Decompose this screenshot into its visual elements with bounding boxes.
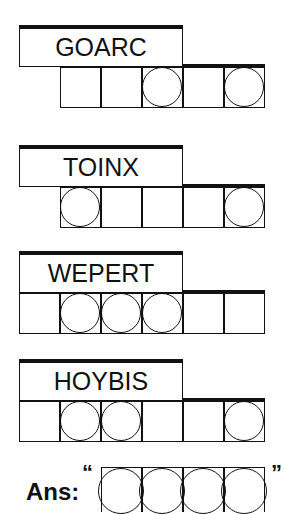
letter-cell[interactable] bbox=[60, 187, 101, 228]
answer-label: Ans: bbox=[26, 478, 79, 506]
letter-cell[interactable] bbox=[142, 67, 183, 108]
letter-cell[interactable] bbox=[19, 401, 60, 442]
letter-cell[interactable] bbox=[101, 293, 142, 334]
circle-marker-icon bbox=[60, 187, 100, 227]
letter-cell[interactable] bbox=[60, 293, 101, 334]
scrambled-word: TOINX bbox=[19, 145, 183, 187]
circle-marker-icon bbox=[139, 468, 185, 514]
scrambled-word: GOARC bbox=[19, 25, 183, 67]
letter-cell[interactable] bbox=[19, 293, 60, 334]
circle-marker-icon bbox=[221, 468, 267, 514]
circle-marker-icon bbox=[98, 468, 144, 514]
letter-cell[interactable] bbox=[101, 187, 142, 228]
circle-marker-icon bbox=[60, 401, 100, 441]
letter-cell[interactable] bbox=[101, 67, 142, 108]
letter-cell[interactable] bbox=[101, 401, 142, 442]
letter-cell[interactable] bbox=[142, 401, 183, 442]
circle-marker-icon bbox=[224, 67, 264, 107]
letter-cell[interactable] bbox=[60, 401, 101, 442]
answer-cell[interactable] bbox=[101, 467, 142, 512]
circle-marker-icon bbox=[142, 293, 182, 333]
letter-cell[interactable] bbox=[224, 401, 265, 442]
circle-marker-icon bbox=[224, 187, 264, 227]
letter-cell[interactable] bbox=[183, 187, 224, 228]
circle-marker-icon bbox=[180, 468, 226, 514]
letter-cell[interactable] bbox=[183, 293, 224, 334]
letter-cell[interactable] bbox=[142, 187, 183, 228]
letter-cell[interactable] bbox=[183, 401, 224, 442]
letter-cell[interactable] bbox=[224, 187, 265, 228]
circle-marker-icon bbox=[101, 401, 141, 441]
open-quote: “ bbox=[82, 462, 93, 484]
circle-marker-icon bbox=[60, 293, 100, 333]
circle-marker-icon bbox=[224, 401, 264, 441]
answer-cell[interactable] bbox=[224, 467, 265, 512]
letter-cell[interactable] bbox=[224, 67, 265, 108]
close-quote: ” bbox=[271, 462, 282, 484]
circle-marker-icon bbox=[142, 67, 182, 107]
letter-cell[interactable] bbox=[60, 67, 101, 108]
letter-cell[interactable] bbox=[183, 67, 224, 108]
letter-cell[interactable] bbox=[142, 293, 183, 334]
scrambled-word: WEPERT bbox=[19, 251, 183, 293]
scrambled-word: HOYBIS bbox=[19, 359, 183, 401]
answer-cell[interactable] bbox=[142, 467, 183, 512]
answer-cell[interactable] bbox=[183, 467, 224, 512]
letter-cell[interactable] bbox=[224, 293, 265, 334]
circle-marker-icon bbox=[101, 293, 141, 333]
